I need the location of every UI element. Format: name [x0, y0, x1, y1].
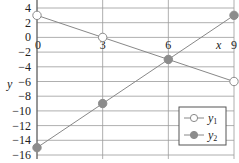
- y-tick-label: 4: [25, 1, 31, 15]
- open-circle-icon: [190, 114, 197, 121]
- y-tick-label: 2: [25, 16, 31, 30]
- y2-point: [98, 99, 106, 107]
- y-tick-label: −10: [12, 104, 31, 118]
- x-tick-label: 0: [35, 38, 41, 52]
- y-tick-label: −16: [12, 148, 31, 162]
- y1-point: [230, 77, 238, 85]
- y-axis-label: y: [6, 77, 13, 91]
- x-axis-label: x: [215, 38, 222, 52]
- y2-point: [33, 143, 41, 151]
- legend: y1y2: [179, 107, 226, 145]
- y-tick-label: −4: [18, 60, 31, 74]
- y-tick-label: −2: [18, 45, 31, 59]
- y-tick-label: −6: [18, 75, 31, 89]
- y-tick-label: −14: [12, 133, 31, 147]
- x-tick-label: 9: [231, 38, 237, 52]
- y1-line: [37, 15, 234, 81]
- line-chart: 420−2−4−6−8−10−12−14−160369 x y y1y2: [0, 0, 239, 163]
- x-tick-label: 6: [165, 38, 171, 52]
- legend-box: [179, 107, 226, 145]
- y-tick-label: 0: [25, 30, 31, 44]
- y2-point: [230, 11, 238, 19]
- filled-circle-icon: [190, 131, 197, 138]
- y2-point: [164, 55, 172, 63]
- y-tick-label: −8: [18, 89, 31, 103]
- y1-point: [33, 11, 41, 19]
- y-tick-label: −12: [12, 119, 31, 133]
- y1-point: [98, 33, 106, 41]
